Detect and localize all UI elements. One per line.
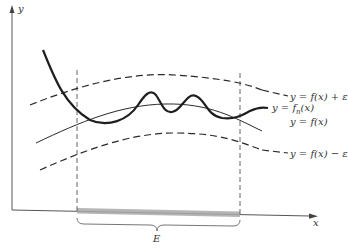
upper-leader [262, 90, 288, 96]
lower-curve-label: y = f(x) − ε [290, 149, 348, 159]
diagram-canvas: y x y = f(x) + ε y = fn(x) y = f(x) y = … [0, 0, 348, 252]
lower-leader [262, 150, 288, 153]
set-e-band [77, 208, 240, 217]
upper-curve-label: y = f(x) + ε [290, 92, 348, 102]
fn-curve-label: y = fn(x) [272, 103, 314, 116]
f-curve [36, 104, 262, 143]
lower-epsilon-curve [40, 133, 262, 170]
y-axis [10, 5, 15, 210]
set-e-brace [77, 218, 240, 231]
set-e-label: E [153, 234, 160, 244]
y-axis-arrow-icon [10, 5, 15, 13]
f-curve-label: y = f(x) [290, 117, 328, 127]
fn-label-prefix: y = f [272, 102, 296, 113]
fn-label-suffix: (x) [301, 102, 314, 113]
upper-epsilon-curve [30, 75, 262, 105]
y-axis-label: y [18, 4, 24, 14]
x-axis-label: x [313, 218, 319, 228]
